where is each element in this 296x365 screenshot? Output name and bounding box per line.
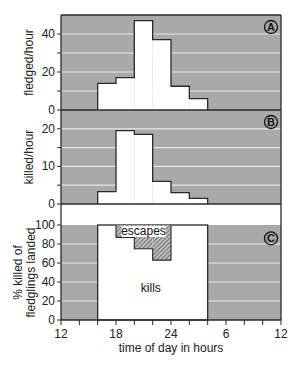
panel-c-label: C bbox=[267, 232, 275, 244]
panel-a-bar bbox=[189, 99, 207, 110]
panel-a-ytick-label: 20 bbox=[42, 65, 56, 79]
panel-a-bar bbox=[134, 21, 152, 110]
panel-b-ylabel: killed/hour bbox=[22, 130, 36, 185]
panel-c-ytick-label: 100 bbox=[35, 218, 55, 232]
panel-c-ytick-label: 0 bbox=[48, 313, 55, 327]
panel-b-bar bbox=[171, 193, 189, 204]
panel-c-ytick-label: 60 bbox=[42, 256, 56, 270]
panel-a-bar bbox=[116, 78, 134, 110]
panel-a-bar bbox=[171, 86, 189, 110]
panel-c-ytick-label: 20 bbox=[42, 294, 56, 308]
panel-b-ytick-label: 10 bbox=[42, 159, 56, 173]
panel-b-bar bbox=[153, 181, 171, 204]
panel-b-ytick-label: 20 bbox=[42, 122, 56, 136]
x-tick-label: 12 bbox=[54, 327, 68, 341]
panel-b-label: B bbox=[267, 116, 275, 128]
panel-b-ytick-label: 0 bbox=[48, 197, 55, 211]
panel-b-bar bbox=[98, 192, 116, 204]
escapes-label: escapes bbox=[121, 224, 166, 238]
x-tick-label: 6 bbox=[223, 327, 230, 341]
panel-c-ylabel-line: fledglings landed bbox=[24, 227, 38, 317]
chart: 02040fledged/hourA01020killed/hourBescap… bbox=[0, 0, 296, 365]
panel-a-bar bbox=[153, 40, 171, 110]
x-tick-label: 18 bbox=[109, 327, 123, 341]
panel-a-ylabel: fledged/hour bbox=[22, 29, 36, 96]
panel-a-bar bbox=[98, 83, 116, 110]
panel-b-bar bbox=[189, 198, 207, 204]
panel-b-bar bbox=[134, 134, 152, 204]
panel-a-ytick-label: 40 bbox=[42, 27, 56, 41]
panel-c-ytick-label: 80 bbox=[42, 237, 56, 251]
panel-a-ytick-label: 0 bbox=[48, 103, 55, 117]
panel-c-ylabel-line: % killed of bbox=[11, 244, 25, 299]
x-axis-title: time of day in hours bbox=[119, 341, 224, 355]
panel-a-label: A bbox=[267, 21, 275, 33]
x-tick-label: 24 bbox=[164, 327, 178, 341]
panel-b-bar bbox=[116, 131, 134, 204]
kills-label: kills bbox=[141, 281, 161, 295]
panel-c-ytick-label: 40 bbox=[42, 275, 56, 289]
x-tick-label: 12 bbox=[274, 327, 288, 341]
